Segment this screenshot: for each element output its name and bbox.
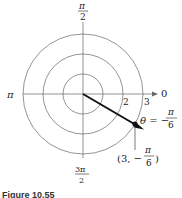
point-label-open: (3, − (117, 153, 142, 164)
point-label-den: 6 (146, 158, 152, 168)
polar-axis-arrow-icon (152, 92, 158, 97)
theta-label: θ = − (140, 115, 169, 126)
point-label-num: π (144, 145, 152, 155)
ring-label-2: 2 (123, 97, 129, 107)
label-zero: 0 (161, 88, 167, 99)
theta-label-num: π (167, 107, 175, 117)
theta-label-den: 6 (168, 120, 174, 130)
label-3pi-over-2-den: 2 (79, 176, 84, 185)
figure-caption: Figure 10.55 (2, 190, 55, 198)
label-3pi-over-2-num: 3π (75, 165, 85, 174)
label-pi-over-2-num: π (78, 1, 86, 11)
point-marker (132, 121, 137, 126)
label-pi-over-2-den: 2 (80, 12, 86, 22)
polar-diagram: 0 π π 2 3π 2 2 3 θ = − π 6 (3, − π 6 ) F… (0, 0, 182, 198)
ring-label-3: 3 (144, 97, 150, 107)
label-pi: π (6, 89, 14, 100)
point-label-close: ) (155, 153, 159, 164)
